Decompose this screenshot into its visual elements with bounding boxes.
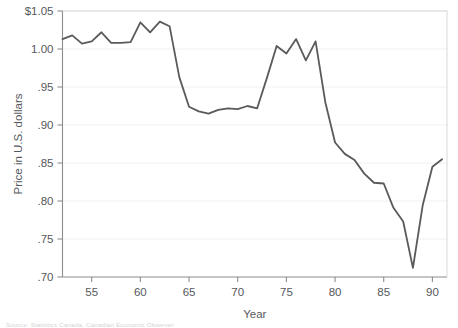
y-tick-label: .80 bbox=[38, 195, 54, 207]
chart-figure: .70.75.80.85.90.951.00$1.055560657075808… bbox=[0, 0, 458, 328]
axes bbox=[63, 11, 448, 277]
tick-marks bbox=[58, 11, 433, 282]
x-tick-label: 60 bbox=[134, 286, 147, 298]
x-tick-label: 70 bbox=[231, 286, 244, 298]
gridlines bbox=[63, 11, 448, 239]
source-note: Source: Statistics Canada, Canadian Econ… bbox=[6, 321, 174, 328]
y-tick-label: .85 bbox=[38, 157, 54, 169]
line-chart: .70.75.80.85.90.951.00$1.055560657075808… bbox=[0, 0, 458, 328]
y-tick-label: 1.00 bbox=[31, 43, 53, 55]
x-tick-label: 90 bbox=[426, 286, 439, 298]
y-tick-label: .70 bbox=[38, 271, 54, 283]
x-tick-label: 65 bbox=[183, 286, 196, 298]
x-axis-title: Year bbox=[243, 308, 266, 320]
data-series-line bbox=[63, 22, 443, 268]
x-tick-label: 85 bbox=[377, 286, 390, 298]
y-axis-title: Price in U.S. dollars bbox=[12, 93, 24, 194]
series-line-exchange-rate bbox=[63, 22, 443, 268]
y-tick-label: .90 bbox=[38, 119, 54, 131]
x-tick-label: 55 bbox=[85, 286, 98, 298]
y-tick-label: $1.05 bbox=[25, 5, 54, 17]
x-tick-label: 75 bbox=[280, 286, 293, 298]
y-tick-label: .95 bbox=[38, 81, 54, 93]
x-tick-label: 80 bbox=[329, 286, 342, 298]
y-tick-label: .75 bbox=[38, 233, 54, 245]
